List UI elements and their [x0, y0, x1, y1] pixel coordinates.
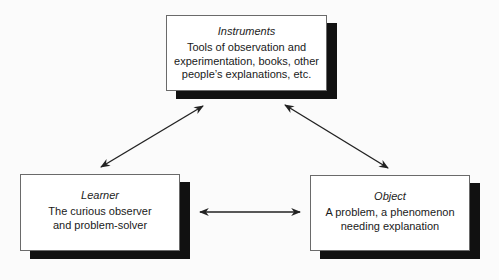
node-instruments: Instruments Tools of observation and exp…	[166, 15, 327, 91]
node-learner: Learner The curious observer and problem…	[20, 174, 180, 251]
node-description: A problem, a phenomenon needing explanat…	[311, 206, 469, 233]
arrow-instruments-object	[285, 105, 388, 168]
node-object: Object A problem, a phenomenon needing e…	[310, 175, 470, 251]
node-description: Tools of observation and experimentation…	[167, 41, 326, 82]
node-title: Object	[311, 190, 469, 203]
node-title: Instruments	[167, 25, 326, 38]
arrow-learner-instruments	[101, 106, 203, 167]
node-title: Learner	[21, 189, 179, 202]
node-description: The curious observer and problem-solver	[21, 205, 179, 232]
